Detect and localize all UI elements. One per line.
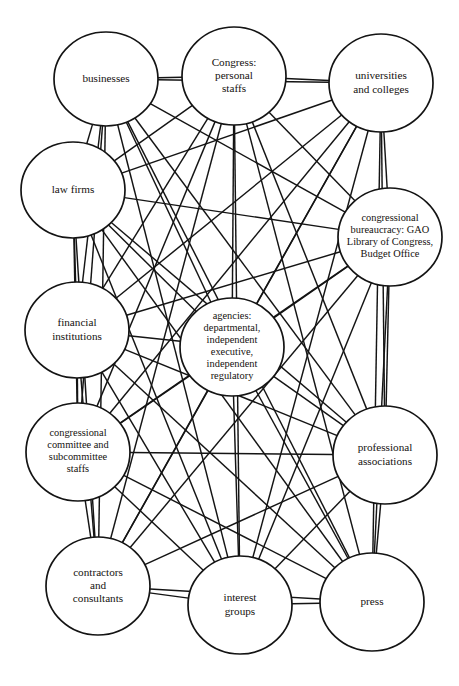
node-label-line: personal <box>215 69 253 81</box>
node-label-interest-groups: interestgroups <box>224 591 258 616</box>
node-financial-institutions[interactable]: financialinstitutions <box>25 282 129 378</box>
node-label-law-firms: law firms <box>52 183 95 195</box>
node-label-financial-institutions: financialinstitutions <box>52 316 102 341</box>
node-label-line: interest <box>224 591 258 603</box>
edge-businesses--law-firms <box>87 124 93 143</box>
node-label-line: groups <box>225 604 255 616</box>
node-label-line: independent <box>207 334 258 345</box>
edge-businesses--congress-personal-staffs <box>158 77 182 78</box>
node-label-line: professional <box>358 441 413 453</box>
edge-professional-associations--contractors-and-consultants <box>145 476 338 564</box>
node-congress-personal-staffs[interactable]: Congress:personalstaffs <box>182 27 286 125</box>
node-label-line: associations <box>358 454 412 466</box>
node-congressional-committee-staffs[interactable]: congressionalcommittee andsubcommitteest… <box>26 403 130 501</box>
node-label-line: universities <box>355 69 407 81</box>
node-label-line: independent <box>207 359 258 370</box>
node-label-line: subcommittee <box>49 451 108 462</box>
node-label-line: consultants <box>73 592 123 604</box>
edge-contractors-and-consultants--interest-groups <box>149 593 188 598</box>
edge-congress-personal-staffs--congressional-bureaucracy <box>269 112 355 201</box>
node-press[interactable]: press <box>320 553 424 651</box>
node-label-line: law firms <box>52 183 95 195</box>
node-label-line: press <box>361 595 384 607</box>
node-businesses[interactable]: businesses <box>54 32 158 126</box>
node-label-line: Congress: <box>212 55 257 67</box>
node-label-line: staffs <box>222 82 246 94</box>
node-label-businesses: businesses <box>82 72 129 84</box>
node-label-line: Budget Office <box>361 249 420 260</box>
node-label-line: and colleges <box>353 82 409 94</box>
node-label-line: departmental, <box>204 322 261 333</box>
node-label-line: congressional <box>49 427 106 438</box>
node-label-line: executive, <box>211 346 253 357</box>
node-professional-associations[interactable]: professionalassociations <box>333 406 437 504</box>
network-diagram-svg: businessesCongress:personalstaffsunivers… <box>0 0 459 686</box>
edge-congress-personal-staffs--universities-and-colleges <box>286 78 329 80</box>
node-label-line: financial <box>57 316 96 328</box>
node-label-line: staffs <box>67 464 89 475</box>
edge-universities-and-colleges--financial-institutions <box>116 115 342 298</box>
edge-congressional-committee-staffs--contractors-and-consultants <box>85 501 91 538</box>
network-diagram-root: businessesCongress:personalstaffsunivers… <box>0 0 459 686</box>
node-agencies[interactable]: agencies:departmental,independentexecuti… <box>180 298 284 396</box>
edge-universities-and-colleges--congressional-bureaucracy <box>384 132 387 188</box>
edge-agencies--congressional-committee-staffs <box>120 376 190 424</box>
node-universities-and-colleges[interactable]: universitiesand colleges <box>329 34 433 132</box>
node-label-line: businesses <box>82 72 129 84</box>
node-congressional-bureaucracy[interactable]: congressionalbureaucracy: GAOLibrary of … <box>338 188 442 286</box>
edge-law-firms--congressional-bureaucracy <box>124 198 338 230</box>
node-contractors-and-consultants[interactable]: contractorsandconsultants <box>46 537 150 635</box>
node-label-line: committee and <box>47 439 109 450</box>
node-layer: businessesCongress:personalstaffsunivers… <box>21 27 442 654</box>
node-label-line: and <box>90 579 107 591</box>
node-label-line: Library of Congress, <box>347 236 433 247</box>
edge-congress-personal-staffs--agencies <box>232 125 233 298</box>
node-label-line: regulatory <box>211 371 255 382</box>
node-label-line: institutions <box>52 329 102 341</box>
node-label-universities-and-colleges: universitiesand colleges <box>353 69 409 94</box>
node-interest-groups[interactable]: interestgroups <box>188 556 292 654</box>
node-label-professional-associations: professionalassociations <box>358 441 413 466</box>
edge-interest-groups--press <box>292 603 320 604</box>
node-label-line: contractors <box>73 565 123 577</box>
node-law-firms[interactable]: law firms <box>21 142 125 238</box>
node-label-line: agencies: <box>213 310 252 321</box>
node-label-press: press <box>361 595 384 607</box>
node-label-line: bureaucracy: GAO <box>351 224 430 235</box>
node-label-line: congressional <box>361 212 418 223</box>
